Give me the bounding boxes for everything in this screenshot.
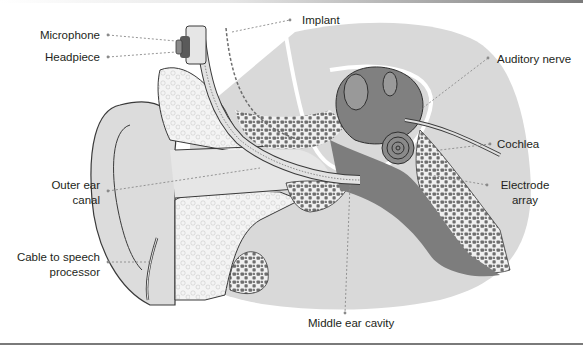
pinna	[91, 102, 176, 305]
label-cable-line1: Cable to speech	[8, 250, 100, 265]
label-outer-ear-canal: Outer ear canal	[20, 178, 100, 208]
label-outer-ear-canal-line2: canal	[20, 193, 100, 208]
label-cable-line2: processor	[8, 265, 100, 280]
label-auditory-nerve: Auditory nerve	[497, 52, 571, 67]
label-cochlea: Cochlea	[497, 137, 539, 152]
label-outer-ear-canal-line1: Outer ear	[20, 178, 100, 193]
label-cable-to-speech-processor: Cable to speech processor	[8, 250, 100, 280]
label-middle-ear-cavity: Middle ear cavity	[308, 316, 394, 331]
label-headpiece: Headpiece	[20, 50, 100, 65]
label-implant: Implant	[302, 13, 340, 28]
label-electrode-array: Electrode array	[492, 178, 558, 208]
label-microphone: Microphone	[20, 28, 100, 43]
headpiece	[176, 26, 206, 64]
label-electrode-array-line1: Electrode	[492, 178, 558, 193]
bottom-rule	[0, 343, 583, 345]
label-electrode-array-line2: array	[492, 193, 558, 208]
